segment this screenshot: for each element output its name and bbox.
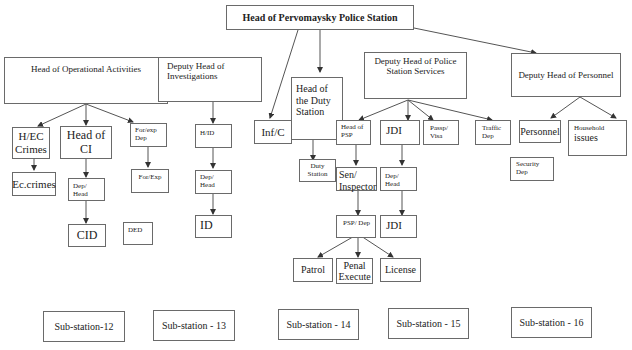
node-label: Head of PSP	[341, 123, 363, 139]
node-label-large: issues	[574, 132, 621, 144]
node-label: H/EC Crimes	[13, 130, 49, 155]
node-label: Head of Operational Activities	[31, 64, 141, 74]
node-sen-inspector: Sen/ Inspector	[336, 167, 377, 191]
node-label: Sub-station - 15	[397, 318, 461, 330]
node-license: License	[380, 258, 421, 282]
node-operational-activities: Head of Operational Activities	[4, 57, 168, 104]
node-label: PSP/ Dep	[343, 219, 370, 227]
node-label: Head of the Duty Station	[296, 83, 331, 117]
substation-15: Sub-station - 15	[388, 308, 469, 339]
node-cid: CID	[68, 224, 106, 247]
node-ec-crimes: Ec.crimes	[12, 172, 56, 196]
node-label: For/Exp	[139, 173, 162, 181]
node-label: Duty Station	[308, 162, 328, 178]
root-label: Head of Pervomaysky Police Station	[243, 12, 398, 24]
node-label: Deputy Head of Investigations	[167, 61, 224, 81]
node-label: JDI	[386, 219, 402, 231]
node-psp-dep: PSP/ Dep	[336, 215, 376, 238]
node-label: Dep/ Head	[385, 172, 400, 188]
node-label: For/exp Dep	[135, 126, 157, 142]
node-ci-dep-head: Dep/ Head	[68, 178, 105, 201]
node-label: H/ID	[200, 129, 214, 137]
node-label: Sub-station - 14	[287, 319, 351, 331]
node-label: Security Dep	[516, 160, 539, 176]
node-label: Deputy Head of Personnel	[518, 70, 613, 80]
node-label: Inf/C	[261, 126, 284, 139]
node-label: Sub-station - 16	[520, 317, 584, 329]
node-label: Head of CI	[61, 129, 111, 157]
node-id: ID	[195, 215, 232, 238]
node-forexp: For/Exp	[131, 169, 169, 193]
substation-14: Sub-station - 14	[278, 309, 359, 340]
node-jdi: JDI	[380, 120, 420, 145]
node-penal-execute: Penal Execute	[336, 258, 373, 284]
node-label: Ec.crimes	[12, 178, 56, 191]
node-label: Dep/ Head	[200, 173, 215, 189]
substation-13: Sub-station - 13	[153, 310, 235, 341]
node-label: Patrol	[301, 264, 325, 276]
substation-12: Sub-station-12	[43, 311, 125, 342]
node-hid: H/ID	[195, 124, 232, 148]
node-label: JDI	[386, 124, 402, 136]
node-household-issues: Household issues	[568, 120, 627, 156]
node-jdi-dep-head: Dep/ Head	[380, 167, 417, 191]
node-label: Deputy Head of Police Station Services	[374, 56, 456, 76]
node-label: Traffic Dep	[482, 124, 501, 140]
node-deputy-investigations: Deputy Head of Investigations	[158, 57, 262, 102]
node-label: Sen/ Inspector	[339, 169, 376, 192]
node-head-ci: Head of CI	[60, 126, 112, 159]
node-label: Passp/ Visa	[430, 124, 448, 140]
node-passp-visa: Passp/ Visa	[423, 120, 459, 145]
node-investigations-dep-head: Dep/ Head	[195, 170, 232, 194]
substation-16: Sub-station - 16	[511, 307, 592, 338]
node-label: Personnel	[520, 126, 559, 138]
node-forexp-dep: For/exp Dep	[130, 123, 167, 147]
node-label: Penal Execute	[337, 260, 372, 283]
node-hec-crimes: H/EC Crimes	[12, 127, 50, 159]
node-security-dep: Security Dep	[510, 157, 554, 181]
node-label: License	[385, 264, 416, 276]
node-label: DED	[128, 226, 142, 234]
node-jdi-unit: JDI	[380, 215, 417, 238]
node-label: Sub-station - 13	[162, 320, 226, 332]
node-inf-c: Inf/C	[254, 120, 292, 144]
node-ded: DED	[123, 222, 153, 245]
node-label-small: Household	[574, 124, 621, 132]
node-label: Sub-station-12	[55, 321, 114, 333]
node-traffic-dep: Traffic Dep	[475, 120, 511, 145]
node-deputy-services: Deputy Head of Police Station Services	[364, 52, 467, 99]
node-patrol: Patrol	[293, 258, 333, 282]
node-label: CID	[77, 229, 98, 243]
node-duty-station: Duty Station	[299, 159, 336, 182]
node-deputy-personnel: Deputy Head of Personnel	[511, 53, 621, 97]
node-personnel: Personnel	[519, 120, 561, 143]
node-label: ID	[200, 218, 213, 232]
node-label: Dep/ Head	[73, 182, 88, 198]
node-head-psp: Head of PSP	[336, 120, 371, 145]
root-node: Head of Pervomaysky Police Station	[226, 5, 414, 30]
